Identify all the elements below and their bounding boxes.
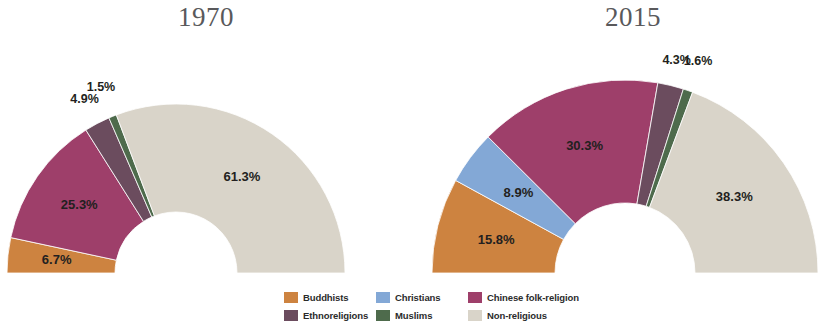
- legend-item-ethnoreligions[interactable]: Ethnoreligions: [284, 306, 376, 324]
- legend-label-chinese-folk-religion: Chinese folk-religion: [487, 292, 579, 303]
- legend-swatch-non-religious: [468, 310, 482, 321]
- slice-value-label: 30.3%: [566, 138, 603, 153]
- legend-item-muslims[interactable]: Muslims: [376, 306, 468, 324]
- slice-value-label: 1.5%: [87, 80, 116, 94]
- slice-value-label: 4.9%: [70, 92, 99, 106]
- legend-swatch-buddhists: [284, 292, 298, 303]
- legend-swatch-chinese-folk-religion: [468, 292, 482, 303]
- religion-composition-figure: 1970 2015 6.7%25.3%4.9%1.5%61.3% 15.8%8.…: [0, 0, 832, 327]
- legend-label-non-religious: Non-religious: [487, 310, 547, 321]
- slice-value-label: 6.7%: [42, 252, 72, 267]
- slice-value-label: 8.9%: [504, 185, 534, 200]
- half-donut-chart-2015: 15.8%8.9%30.3%4.3%1.6%38.3%: [416, 0, 832, 300]
- legend-item-chinese-folk-religion[interactable]: Chinese folk-religion: [468, 288, 604, 306]
- slice-value-label: 15.8%: [478, 232, 515, 247]
- legend-swatch-christians: [376, 292, 390, 303]
- legend-item-christians[interactable]: Christians: [376, 288, 468, 306]
- pie-slice-non-religious[interactable]: [116, 104, 345, 273]
- slice-value-label: 25.3%: [61, 197, 98, 212]
- legend-label-christians: Christians: [395, 292, 440, 303]
- slice-group-1970: [7, 104, 345, 273]
- half-donut-chart-1970: 6.7%25.3%4.9%1.5%61.3%: [0, 0, 416, 300]
- legend-label-ethnoreligions: Ethnoreligions: [303, 310, 368, 321]
- legend-item-buddhists[interactable]: Buddhists: [284, 288, 376, 306]
- legend-label-buddhists: Buddhists: [303, 292, 349, 303]
- legend-swatch-ethnoreligions: [284, 310, 298, 321]
- legend-label-muslims: Muslims: [395, 310, 432, 321]
- legend: Buddhists Ethnoreligions Christians Musl…: [284, 288, 604, 324]
- slice-value-label: 38.3%: [716, 189, 753, 204]
- legend-swatch-muslims: [376, 310, 390, 321]
- legend-item-non-religious[interactable]: Non-religious: [468, 306, 604, 324]
- slice-value-label: 61.3%: [224, 169, 261, 184]
- slice-value-label: 1.6%: [684, 54, 713, 68]
